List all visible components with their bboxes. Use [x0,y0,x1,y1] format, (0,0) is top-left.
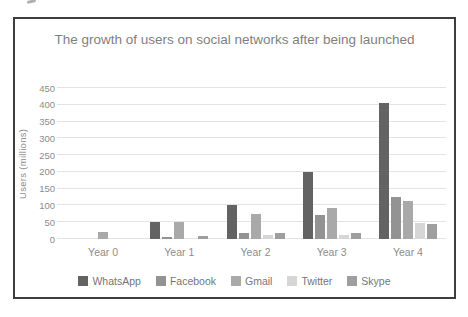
y-axis-ticks: 050100150200250300350400450 [29,88,55,239]
legend-item-whatsapp: WhatsApp [78,275,140,287]
bar-group-year-0 [65,88,141,239]
y-tick-label-0: 0 [50,235,55,245]
legend-label-skype: Skype [361,275,390,287]
bar-facebook-2 [239,233,249,239]
x-axis-labels: Year 0Year 1Year 2Year 3Year 4 [57,246,446,258]
bar-group-year-3 [294,88,370,239]
x-axis-label-year-3: Year 3 [294,246,370,258]
bar-skype-4 [427,224,437,239]
y-tick-label-350: 350 [39,117,55,127]
x-axis-label-year-1: Year 1 [141,246,217,258]
bar-skype-2 [275,233,285,239]
y-axis-title: Users (millions) [17,88,28,239]
bar-gmail-2 [251,214,261,239]
legend-swatch-twitter [287,276,297,286]
legend-label-facebook: Facebook [170,275,216,287]
bar-skype-1 [198,236,208,239]
legend-swatch-facebook [156,276,166,286]
y-tick-label-200: 200 [39,167,55,177]
legend-item-gmail: Gmail [231,275,272,287]
legend-label-whatsapp: WhatsApp [92,275,140,287]
plot-area [57,88,446,239]
bar-whatsapp-4 [379,103,389,239]
y-tick-label-150: 150 [39,184,55,194]
bar-groups [57,88,446,239]
crop-artifact [27,0,36,4]
y-tick-label-300: 300 [39,134,55,144]
y-tick-label-400: 400 [39,100,55,110]
y-tick-label-100: 100 [39,201,55,211]
bar-twitter-2 [263,235,273,239]
chart-title: The growth of users on social networks a… [41,30,427,50]
x-axis-label-year-0: Year 0 [65,246,141,258]
legend-swatch-gmail [231,276,241,286]
bar-whatsapp-3 [303,172,313,239]
bar-twitter-4 [415,223,425,239]
legend-item-skype: Skype [347,275,390,287]
x-axis-label-year-4: Year 4 [370,246,446,258]
bar-whatsapp-1 [150,222,160,239]
bar-facebook-3 [315,215,325,239]
bar-facebook-1 [162,237,172,239]
bar-group-year-1 [141,88,217,239]
legend-item-twitter: Twitter [287,275,332,287]
legend-swatch-skype [347,276,357,286]
bar-gmail-0 [98,232,108,239]
bar-twitter-3 [339,235,349,239]
bar-group-year-4 [370,88,446,239]
bar-skype-3 [351,233,361,239]
x-axis-label-year-2: Year 2 [217,246,293,258]
chart-frame: The growth of users on social networks a… [13,17,456,299]
y-tick-label-50: 50 [44,218,55,228]
y-tick-label-250: 250 [39,151,55,161]
legend: WhatsAppFacebookGmailTwitterSkype [15,275,454,287]
bar-whatsapp-2 [227,205,237,239]
bar-gmail-4 [403,201,413,239]
bar-gmail-1 [174,222,184,239]
legend-swatch-whatsapp [78,276,88,286]
y-tick-label-450: 450 [39,84,55,94]
bar-facebook-4 [391,197,401,239]
bar-gmail-3 [327,208,337,239]
bar-group-year-2 [217,88,293,239]
legend-label-gmail: Gmail [245,275,272,287]
legend-label-twitter: Twitter [301,275,332,287]
legend-item-facebook: Facebook [156,275,216,287]
chart-image: The growth of users on social networks a… [0,0,468,317]
